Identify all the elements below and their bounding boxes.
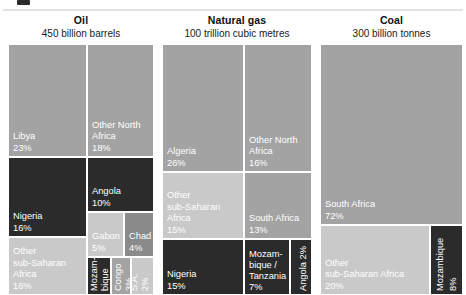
tile-oil-gabon-value: 5% (92, 243, 105, 253)
tile-oil-libya-label: Libya (13, 131, 35, 141)
tile-oil-congo-label: Congo 3% (112, 258, 130, 294)
panel-coal-title: Coal (320, 11, 463, 26)
tile-oil-gabon[interactable]: Gabon 5% (87, 212, 124, 257)
panel-natural-gas-treemap: Algeria 26% Other North Africa 16% Other… (162, 44, 312, 295)
tile-gas-mozambique-tanzania-value: 7% (249, 282, 262, 292)
tile-oil-other-north-africa-label: Other North Africa (92, 120, 141, 141)
tile-oil-libya[interactable]: Libya 23% (8, 44, 87, 157)
tile-gas-algeria-value: 26% (167, 158, 186, 168)
tile-oil-nigeria-value: 16% (13, 223, 32, 233)
tile-oil-angola[interactable]: Angola 10% (87, 157, 154, 212)
tile-oil-angola-label: Angola (92, 186, 121, 196)
tile-oil-angola-value: 10% (92, 198, 111, 208)
tile-gas-other-sub-saharan-africa-label: Other sub-Saharan Africa (167, 190, 220, 223)
tile-gas-south-africa-label: South Africa (249, 213, 299, 223)
tile-gas-mozambique-tanzania-label: Mozam- bique / Tanzania (249, 249, 286, 281)
panel-coal: Coal 300 billion tonnes South Africa 72%… (320, 11, 463, 293)
tile-gas-south-africa-value: 13% (249, 225, 268, 235)
panel-oil-title: Oil (8, 11, 154, 26)
tile-oil-other-north-africa-value: 18% (92, 143, 111, 153)
tile-coal-south-africa-value: 72% (325, 211, 344, 221)
tile-oil-congo[interactable]: Congo 3% (111, 257, 131, 295)
tile-coal-south-africa-label: South Africa (325, 199, 375, 209)
tile-coal-other-sub-saharan-africa-label: Other sub-Saharan Africa (325, 258, 404, 279)
tile-oil-nigeria[interactable]: Nigeria 16% (8, 157, 87, 237)
panel-natural-gas-title: Natural gas (162, 11, 312, 26)
tile-gas-other-north-africa-value: 16% (249, 158, 268, 168)
panel-oil: Oil 450 billion barrels Libya 23% Other … (8, 11, 154, 293)
panel-natural-gas-subtitle: 100 trillion cubic metres (162, 26, 312, 40)
tile-coal-other-sub-saharan-africa-value: 20% (325, 281, 344, 291)
panel-oil-treemap: Libya 23% Other North Africa 18% Nigeria… (8, 44, 154, 295)
tile-gas-nigeria-value: 15% (167, 281, 186, 291)
tile-gas-nigeria-label: Nigeria (167, 269, 196, 279)
tile-oil-chad-value: 4% (129, 243, 142, 253)
tile-gas-algeria-label: Algeria (167, 146, 196, 156)
tile-oil-libya-value: 23% (13, 143, 32, 153)
panel-coal-treemap: South Africa 72% Other sub-Saharan Afric… (320, 44, 463, 295)
tile-gas-mozambique-tanzania[interactable]: Mozam- bique / Tanzania 7% (244, 239, 290, 295)
tile-oil-south-africa-label: S.A. 2% (132, 258, 153, 294)
tile-oil-south-africa[interactable]: S.A. 2% (131, 257, 154, 295)
tile-oil-chad-label: Chad (129, 231, 151, 241)
tile-gas-angola-label: Angola 2% (291, 240, 311, 294)
tile-gas-algeria[interactable]: Algeria 26% (162, 44, 244, 172)
tile-gas-other-north-africa[interactable]: Other North Africa 16% (244, 44, 312, 172)
tile-oil-other-sub-saharan-africa-value: 16% (13, 281, 32, 291)
tile-coal-mozambique-label: Mozambique 8% (431, 226, 462, 294)
tile-coal-mozambique[interactable]: Mozambique 8% (430, 225, 463, 295)
cropped-bullet-icon (17, 0, 30, 5)
tile-gas-other-north-africa-label: Other North Africa (249, 135, 298, 156)
tile-gas-angola[interactable]: Angola 2% (290, 239, 312, 295)
tile-oil-chad[interactable]: Chad 4% (124, 212, 154, 257)
tile-oil-nigeria-label: Nigeria (13, 211, 42, 221)
tile-gas-other-sub-saharan-africa[interactable]: Other sub-Saharan Africa 15% (162, 172, 244, 239)
tile-coal-south-africa[interactable]: South Africa 72% (320, 44, 463, 225)
tile-oil-other-sub-saharan-africa-label: Other sub-Saharan Africa (13, 246, 66, 279)
panel-natural-gas: Natural gas 100 trillion cubic metres Al… (162, 11, 312, 293)
tile-gas-other-sub-saharan-africa-value: 15% (167, 225, 186, 235)
tile-oil-gabon-label: Gabon (92, 231, 120, 241)
panel-coal-subtitle: 300 billion tonnes (320, 26, 463, 40)
panel-oil-subtitle: 450 billion barrels (8, 26, 154, 40)
tile-gas-south-africa[interactable]: South Africa 13% (244, 172, 312, 239)
tile-gas-nigeria[interactable]: Nigeria 15% (162, 239, 244, 295)
tile-oil-other-sub-saharan-africa[interactable]: Other sub-Saharan Africa 16% (8, 237, 87, 295)
tile-oil-mozambique-label: Mozam- bique 4% (88, 258, 110, 294)
tile-coal-other-sub-saharan-africa[interactable]: Other sub-Saharan Africa 20% (320, 225, 430, 295)
tile-oil-mozambique[interactable]: Mozam- bique 4% (87, 257, 111, 295)
tile-oil-other-north-africa[interactable]: Other North Africa 18% (87, 44, 154, 157)
